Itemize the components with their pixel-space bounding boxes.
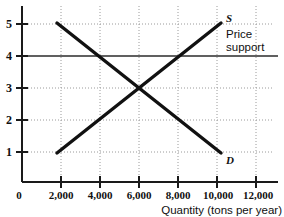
x-axis-tick-labels: 0 2,000 4,000 6,000 8,000 10,000 12,000 — [16, 189, 273, 201]
x-tick-label-6000: 6,000 — [127, 189, 152, 201]
demand-curve-label: D — [225, 154, 234, 166]
x-tick-label-10000: 10,000 — [203, 189, 234, 201]
x-tick-label-8000: 8,000 — [166, 189, 191, 201]
x-tick-label-12000: 12,000 — [243, 189, 274, 201]
y-tick-label-5: 5 — [6, 17, 12, 31]
y-tick-label-2: 2 — [6, 113, 12, 127]
x-tick-label-0: 0 — [16, 189, 22, 201]
y-tick-label-3: 3 — [6, 81, 12, 95]
x-axis-title: Quantity (tons per year) — [161, 204, 282, 216]
y-tick-label-1: 1 — [6, 145, 12, 159]
price-support-label-line1: Price — [226, 28, 252, 40]
x-tick-label-4000: 4,000 — [88, 189, 113, 201]
y-axis-tick-labels: 5 4 3 2 1 — [6, 17, 12, 159]
supply-demand-chart: 5 4 3 2 1 0 2,000 4,000 6,000 8,000 10,0… — [0, 0, 284, 217]
y-tick-label-4: 4 — [6, 49, 12, 63]
price-support-label-line2: support — [226, 41, 265, 53]
x-tick-label-2000: 2,000 — [49, 189, 74, 201]
supply-curve-label: S — [226, 12, 232, 24]
